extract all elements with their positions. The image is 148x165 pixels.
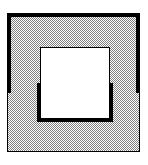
inner-top-edge [40, 47, 110, 48]
outer-right-edge-thick [136, 13, 140, 93]
outer-left-edge-thin [7, 93, 8, 152]
outer-right-edge-thin [139, 93, 140, 152]
figure-canvas [0, 0, 148, 165]
outer-top-edge [7, 13, 140, 17]
inner-right-edge-thin [109, 47, 110, 83]
outer-bottom-edge [7, 151, 140, 152]
line-drawing-svg [0, 0, 148, 165]
inner-bottom-edge [37, 118, 113, 122]
inner-right-edge-thick [109, 83, 113, 122]
inner-left-edge-thick [37, 83, 41, 122]
inner-left-edge-thin [40, 47, 41, 83]
outer-left-edge-thick [7, 13, 11, 93]
inner-square-void-fill [40, 47, 110, 118]
